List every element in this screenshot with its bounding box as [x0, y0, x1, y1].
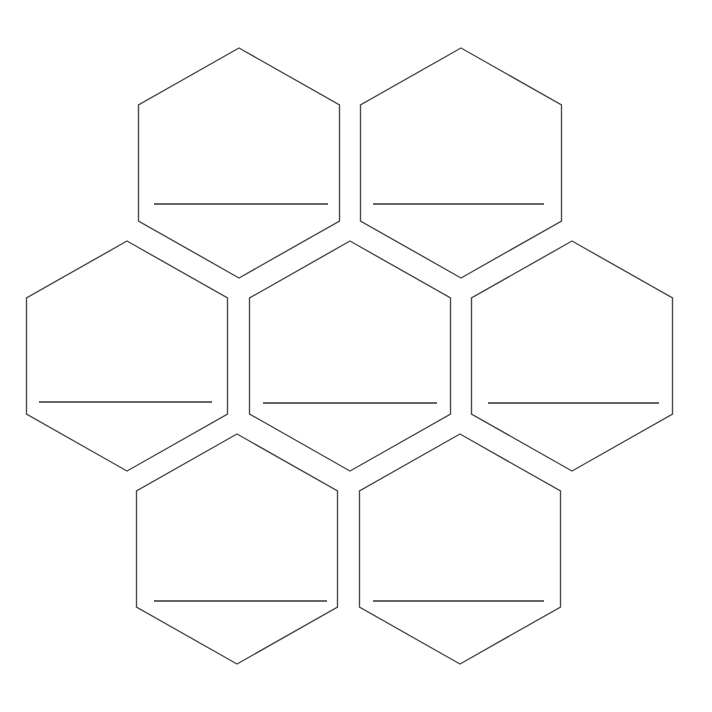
hexagon-outline	[250, 241, 451, 471]
honeycomb-diagram	[0, 0, 712, 712]
hexagon-outline	[472, 241, 673, 471]
hexagon-outline	[361, 48, 562, 278]
hexagon-cell-3[interactable]	[27, 241, 228, 471]
hexagon-cell-1[interactable]	[139, 48, 340, 278]
hexagon-cell-4[interactable]	[250, 241, 451, 471]
hexagon-cell-6[interactable]	[137, 434, 338, 664]
hexagon-cell-5[interactable]	[472, 241, 673, 471]
hexagon-outline	[360, 434, 561, 664]
hexagon-cell-2[interactable]	[361, 48, 562, 278]
hexagon-outline	[139, 48, 340, 278]
hexagon-outline	[27, 241, 228, 471]
honeycomb-canvas	[0, 0, 712, 712]
hexagon-cell-7[interactable]	[360, 434, 561, 664]
hexagon-outline	[137, 434, 338, 664]
